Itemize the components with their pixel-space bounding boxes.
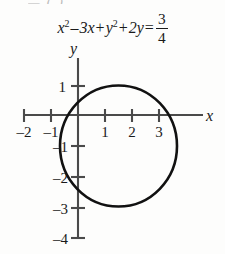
equation-term-2y: 2y [129,19,144,36]
equation-term-3x: 3x [80,19,95,36]
y-tick-label-neg2: –2 [52,170,68,186]
equation-term1-exponent: 2 [65,18,70,29]
figure-page: — ( ) , , x2–3x+y2+2y= 3 4 [0,0,225,254]
x-tick-label-3: 3 [155,124,163,140]
y-axis-label: y [68,40,78,58]
x-axis-label: x [205,107,213,124]
x-tick-label-2: 2 [128,124,136,140]
equation-term3-base: y [106,19,113,36]
x-tick-label-neg1: –1 [43,124,59,140]
equation-term-x-squared: x2 [57,19,69,36]
equation-term3-exponent: 2 [113,18,118,29]
clipped-header-remnant: — ( ) , , [28,0,198,4]
equation-term-y-squared: y2 [106,19,118,36]
y-tick-label-neg3: –3 [52,201,68,217]
graph-plot: x y –2 –1 1 2 3 1 –1 –2 –3 –4 [0,36,225,254]
x-tick-label-1: 1 [101,124,109,140]
equation-operator-plus-1: + [95,19,106,36]
fraction-numerator: 3 [156,11,168,27]
equation-equals-sign: = [144,19,155,36]
coordinate-plane-svg: x y –2 –1 1 2 3 1 –1 –2 –3 –4 [0,36,225,254]
y-tick-label-neg4: –4 [52,231,69,247]
equation-operator-plus-2: + [118,19,129,36]
x-tick-label-neg2: –2 [16,124,32,140]
equation-term1-base: x [57,19,64,36]
equation-operator-minus: – [70,19,80,36]
y-tick-label-neg1: –1 [52,139,68,155]
y-tick-label-1: 1 [59,79,67,95]
